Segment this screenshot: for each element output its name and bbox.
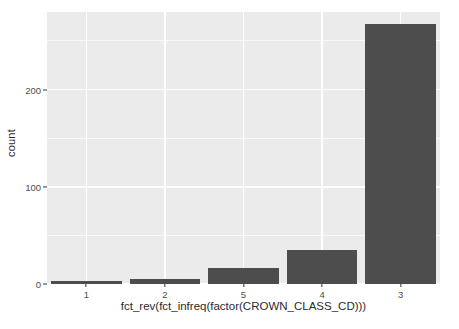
y-tick-label-text: 200 xyxy=(25,84,41,95)
ggplot-bar-chart: count 0100200 12543 fct_rev(fct_infreq(f… xyxy=(0,0,459,329)
x-tick-mark xyxy=(400,284,401,287)
x-tick-label-text: 2 xyxy=(162,289,167,300)
y-tick-label-text: 100 xyxy=(25,181,41,192)
y-tick-label: 100 xyxy=(25,181,47,192)
gridline-vertical-major xyxy=(243,12,244,284)
y-axis-title-label: count xyxy=(5,129,17,157)
y-tick-label: 0 xyxy=(36,279,47,290)
x-tick-mark xyxy=(164,284,165,287)
bar-3 xyxy=(365,24,436,284)
x-tick-mark xyxy=(322,284,323,287)
gridline-vertical-major xyxy=(164,12,165,284)
gridline-vertical-major xyxy=(321,12,322,284)
plot-panel xyxy=(47,12,440,284)
x-tick-label: 4 xyxy=(319,284,324,300)
gridline-vertical-major xyxy=(86,12,87,284)
x-tick-label: 5 xyxy=(241,284,246,300)
x-tick-label-text: 5 xyxy=(241,289,246,300)
x-tick-label: 3 xyxy=(398,284,403,300)
x-axis-title: fct_rev(fct_infreq(factor(CROWN_CLASS_CD… xyxy=(47,300,440,312)
y-tick-label-text: 0 xyxy=(36,279,41,290)
x-tick-mark xyxy=(86,284,87,287)
y-axis-title: count xyxy=(0,0,22,285)
x-tick-mark xyxy=(243,284,244,287)
y-axis-tick-group: 0100200 xyxy=(22,12,47,284)
bar-5 xyxy=(208,268,279,284)
x-tick-label-text: 1 xyxy=(84,289,89,300)
x-tick-label: 2 xyxy=(162,284,167,300)
x-tick-label: 1 xyxy=(84,284,89,300)
x-axis-title-label: fct_rev(fct_infreq(factor(CROWN_CLASS_CD… xyxy=(121,300,366,312)
x-tick-label-text: 4 xyxy=(319,289,324,300)
bar-4 xyxy=(287,250,358,284)
x-tick-label-text: 3 xyxy=(398,289,403,300)
y-tick-label: 200 xyxy=(25,84,47,95)
